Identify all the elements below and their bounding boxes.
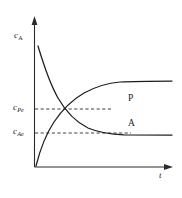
- y-axis-label-subscript: A: [18, 34, 22, 41]
- curve-label-reactant: A: [128, 119, 135, 129]
- curve-label-product: P: [128, 94, 133, 104]
- x-axis-label: t: [159, 171, 162, 180]
- tick-label-cpe-subscript: Pe: [17, 106, 24, 113]
- y-axis-label: cA: [14, 31, 22, 40]
- tick-label-cpe: cPe: [13, 103, 24, 112]
- x-axis-arrow-icon: [164, 164, 173, 170]
- kinetics-figure: cA cPe cAe t P A: [0, 0, 182, 198]
- tick-label-cae: cAe: [13, 127, 24, 136]
- tick-label-cae-subscript: Ae: [17, 130, 24, 137]
- curve-reactant-a: [38, 46, 172, 135]
- y-axis-arrow-icon: [32, 16, 38, 25]
- plot-canvas: [0, 0, 182, 198]
